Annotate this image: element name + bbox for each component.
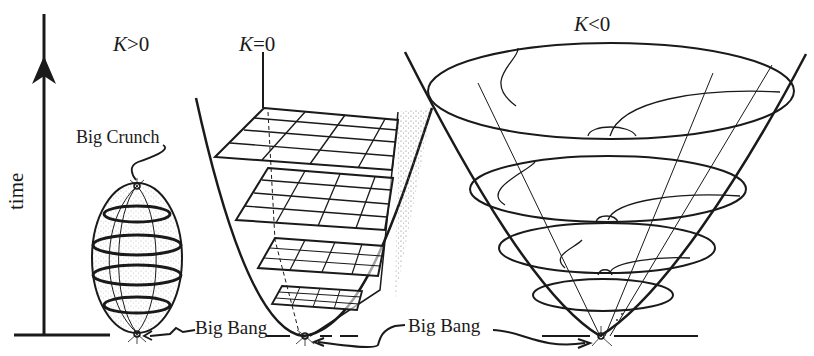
curvature-label-positive: K>0 — [113, 34, 149, 55]
time-axis-label: time — [4, 173, 29, 210]
flat-universe-paraboloid — [196, 52, 432, 346]
open-universe-hyperboloid — [405, 43, 806, 346]
curvature-label-negative: K<0 — [574, 14, 610, 35]
curvature-label-zero: K=0 — [239, 34, 275, 55]
big-crunch-label: Big Crunch — [76, 128, 160, 146]
closed-universe-ellipsoid — [92, 145, 195, 344]
universe-geometry-diagram: K>0 K=0 K<0 time Big Crunch Big Bang Big… — [0, 0, 814, 356]
big-bang-label-shared: Big Bang — [408, 316, 480, 335]
big-bang-label-left: Big Bang — [195, 318, 267, 337]
